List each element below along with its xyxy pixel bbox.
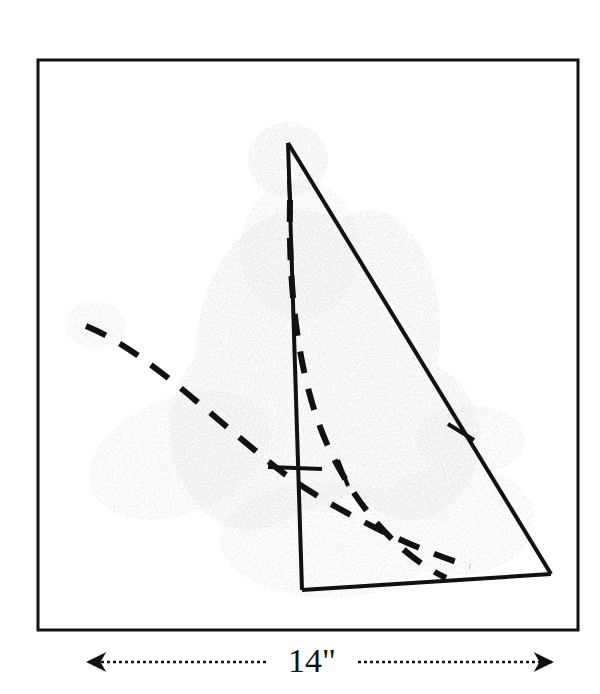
dimension-value-label: 14" [288,644,336,678]
tick-on-arc-left [268,467,322,469]
figure-canvas: 14" [0,0,600,694]
pattern-diagram-svg [0,0,600,694]
tick-apex [289,180,291,215]
